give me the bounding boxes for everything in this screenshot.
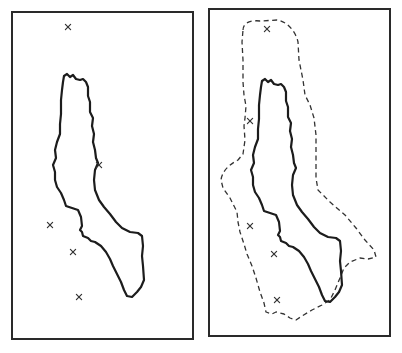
left-panel-frame <box>12 12 193 339</box>
left-panel <box>12 12 193 339</box>
figure-canvas <box>0 0 402 353</box>
figure <box>0 0 402 353</box>
right-panel <box>209 9 390 336</box>
